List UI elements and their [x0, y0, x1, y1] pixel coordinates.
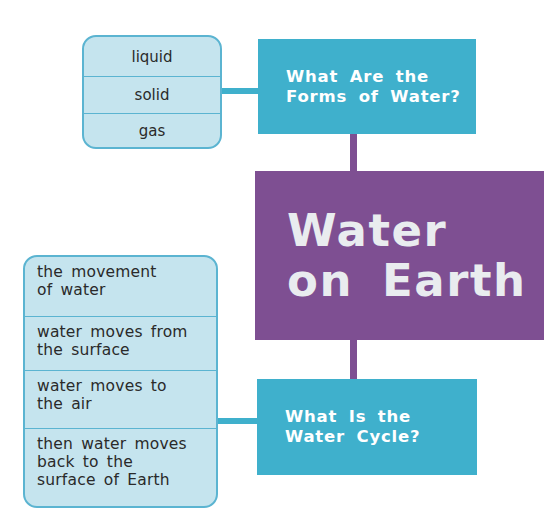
cycle-list: the movement of water water moves from t…: [23, 255, 218, 508]
list-item-line: surface of Earth: [37, 471, 216, 489]
center-title-line1: Water: [287, 206, 544, 256]
list-item-line: the movement: [37, 263, 216, 281]
connector-forms-list: [220, 88, 260, 94]
list-item: the movement of water: [25, 257, 216, 317]
list-item-line: water moves from: [37, 323, 216, 341]
list-item-line: the surface: [37, 341, 216, 359]
list-item-text: liquid: [131, 48, 172, 66]
list-item: gas: [84, 114, 220, 147]
bottom-question-box: What Is the Water Cycle?: [257, 379, 477, 475]
list-item-text: gas: [139, 122, 166, 140]
bottom-question-line2: Water Cycle?: [285, 427, 477, 447]
list-item-line: back to the: [37, 453, 216, 471]
list-item-line: of water: [37, 281, 216, 299]
top-question-line2: Forms of Water?: [286, 87, 476, 107]
bottom-question-line1: What Is the: [285, 407, 477, 427]
list-item: water moves to the air: [25, 371, 216, 429]
center-title-box: Water on Earth: [255, 171, 544, 340]
list-item: then water moves back to the surface of …: [25, 429, 216, 506]
list-item-line: water moves to: [37, 377, 216, 395]
list-item-text: solid: [135, 86, 170, 104]
connector-top-center: [350, 134, 357, 172]
forms-list: liquid solid gas: [82, 35, 222, 149]
list-item: solid: [84, 77, 220, 114]
list-item: liquid: [84, 37, 220, 77]
list-item-line: the air: [37, 395, 216, 413]
list-item: water moves from the surface: [25, 317, 216, 371]
top-question-box: What Are the Forms of Water?: [258, 39, 476, 134]
connector-center-bottom: [350, 339, 357, 380]
center-title-line2: on Earth: [287, 256, 544, 306]
connector-cycle-list: [216, 418, 258, 424]
list-item-line: then water moves: [37, 435, 216, 453]
top-question-line1: What Are the: [286, 67, 476, 87]
